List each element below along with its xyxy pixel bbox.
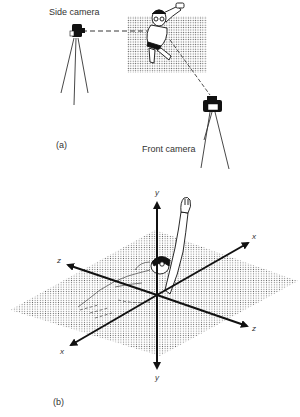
pool-surface xyxy=(127,16,207,73)
axis-label-z-right: z xyxy=(251,324,256,333)
panel-b: y y x x z z (b) xyxy=(10,188,298,407)
figure: Side camera Front camera (a) xyxy=(0,0,300,417)
front-camera-label: Front camera xyxy=(142,144,196,154)
axis-label-x-lower: x xyxy=(59,347,65,356)
panel-a-label: (a) xyxy=(56,140,67,150)
panel-b-label: (b) xyxy=(53,397,64,407)
axis-label-y-bottom: y xyxy=(154,373,160,382)
front-camera-icon xyxy=(201,96,229,169)
side-camera-icon xyxy=(61,24,88,105)
axis-label-y-top: y xyxy=(154,188,160,197)
side-camera-label: Side camera xyxy=(49,7,100,17)
panel-a: Side camera Front camera (a) xyxy=(49,3,229,169)
axis-label-x-upper: x xyxy=(251,232,257,241)
axis-label-z-left: z xyxy=(56,256,61,265)
